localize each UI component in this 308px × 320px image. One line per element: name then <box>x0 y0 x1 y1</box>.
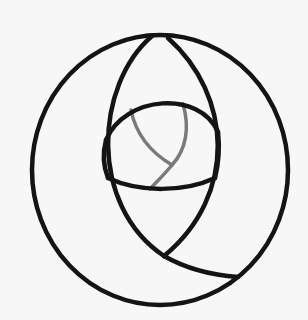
geometric-figure <box>0 0 308 320</box>
background <box>0 0 308 320</box>
